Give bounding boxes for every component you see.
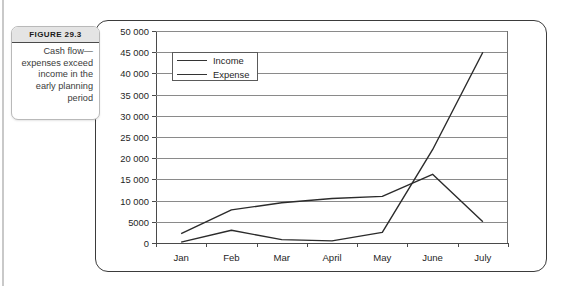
x-axis-tick-mark xyxy=(458,243,459,247)
x-axis-tick-label: June xyxy=(422,252,443,263)
x-axis-tick-mark xyxy=(307,243,308,247)
chart-legend: IncomeExpense xyxy=(172,52,258,81)
y-axis-tick-label: 5000 xyxy=(128,216,149,227)
figure-caption-text: Cash flow—expenses exceed income in the … xyxy=(12,43,99,105)
x-axis-tick-label: April xyxy=(322,252,341,263)
y-axis-tick-label: 30 000 xyxy=(120,110,149,121)
figure-caption-box: Figure 29.3 Cash flow—expenses exceed in… xyxy=(11,26,100,120)
series-line-expense xyxy=(181,174,483,233)
x-axis-tick-mark xyxy=(357,243,358,247)
figure-number-label: Figure 29.3 xyxy=(29,30,81,39)
y-axis-tick-label: 0 xyxy=(144,238,149,249)
x-axis-tick-mark xyxy=(206,243,207,247)
y-axis-tick-label: 15 000 xyxy=(120,174,149,185)
x-axis-tick-mark xyxy=(257,243,258,247)
x-axis-tick-mark xyxy=(407,243,408,247)
x-axis-tick-label: Mar xyxy=(273,252,290,263)
page-gutter-rule xyxy=(2,0,4,286)
y-axis-tick-label: 35 000 xyxy=(120,89,149,100)
legend-label: Expense xyxy=(213,69,249,80)
legend-swatch-line-icon xyxy=(177,74,207,75)
y-axis-tick-label: 50 000 xyxy=(120,26,149,37)
y-axis-tick-label: 10 000 xyxy=(120,195,149,206)
figure-caption-title-band: Figure 29.3 xyxy=(12,27,99,43)
x-axis-line xyxy=(156,243,509,244)
y-axis-tick-label: 40 000 xyxy=(120,68,149,79)
legend-item: Income xyxy=(173,54,257,67)
y-axis-tick-label: 45 000 xyxy=(120,47,149,58)
legend-swatch-line-icon xyxy=(177,60,207,61)
y-axis-tick-label: 25 000 xyxy=(120,132,149,143)
x-axis-tick-label: July xyxy=(474,252,491,263)
x-axis-tick-label: Feb xyxy=(223,252,240,263)
x-axis-tick-label: May xyxy=(373,252,391,263)
y-axis-tick-label: 20 000 xyxy=(120,153,149,164)
x-axis-tick-label: Jan xyxy=(173,252,188,263)
x-axis-tick-mark xyxy=(156,243,157,247)
legend-label: Income xyxy=(213,55,244,66)
x-axis-tick-mark xyxy=(508,243,509,247)
legend-item: Expense xyxy=(173,68,257,81)
